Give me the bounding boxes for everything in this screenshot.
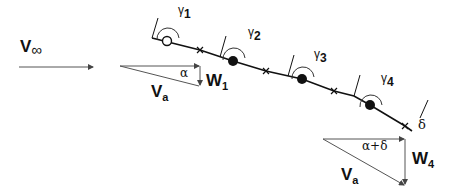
alpha-plus-delta-label: α+δ: [362, 140, 387, 152]
gamma-3-label: γ3: [314, 48, 327, 60]
w1-label: W1: [206, 72, 228, 89]
vortex-point-1-open: [163, 37, 172, 46]
camber-line: [152, 38, 412, 131]
gamma-4-label: γ4: [381, 72, 394, 84]
v-infinity-label: V∞: [20, 38, 42, 55]
vortex-point-2: [228, 56, 238, 66]
va2-label: Va: [341, 166, 358, 183]
diagram-graphics: [0, 0, 449, 195]
gamma-1-label: γ1: [178, 4, 191, 16]
vortex-lattice-diagram: V∞ γ1 γ2 γ3 γ4 δ α α+δ W1 W4 Va Va: [0, 0, 449, 195]
va1-label: Va: [151, 83, 168, 100]
gamma-2-label: γ2: [248, 26, 261, 38]
delta-label: δ: [418, 118, 426, 131]
panel-normals: [152, 18, 428, 118]
alpha-label: α: [180, 67, 188, 79]
w4-label: W4: [412, 150, 434, 167]
vortex-point-4: [365, 100, 375, 110]
vortex-point-3: [297, 74, 307, 84]
